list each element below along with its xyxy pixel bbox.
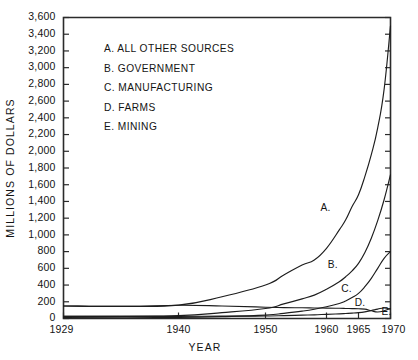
y-tick-label: 3,000 bbox=[28, 60, 55, 72]
y-tick-label: 2,600 bbox=[28, 94, 55, 106]
y-tick-label: 1,600 bbox=[28, 178, 55, 190]
curve-label-d: D. bbox=[355, 297, 366, 308]
y-tick-label: 2,000 bbox=[28, 144, 55, 156]
x-tick-label: 1970 bbox=[381, 323, 405, 335]
curve-label-b: B. bbox=[328, 259, 338, 270]
y-tick-label: 2,800 bbox=[28, 77, 55, 89]
legend-entry-c: C. MANUFACTURING bbox=[104, 82, 213, 93]
x-tick-label: 1940 bbox=[166, 323, 190, 335]
y-tick-label: 400 bbox=[37, 278, 55, 290]
y-tick-label: 200 bbox=[37, 295, 55, 307]
y-tick-label: 0 bbox=[49, 311, 55, 323]
y-tick-label: 3,600 bbox=[28, 10, 55, 22]
x-tick-label: 1960 bbox=[314, 323, 338, 335]
curve-label-e: E. bbox=[382, 306, 392, 317]
x-tick-label: 1965 bbox=[346, 323, 370, 335]
y-tick-label: 1,000 bbox=[28, 228, 55, 240]
y-tick-label: 600 bbox=[37, 261, 55, 273]
curve-label-c: C. bbox=[341, 283, 352, 294]
y-tick-label: 1,200 bbox=[28, 211, 55, 223]
legend-entry-a: A. ALL OTHER SOURCES bbox=[104, 43, 234, 54]
y-tick-label: 3,200 bbox=[28, 44, 55, 56]
chart-figure: 02004006008001,0001,2001,4001,6001,8002,… bbox=[0, 0, 418, 360]
y-tick-label: 1,800 bbox=[28, 161, 55, 173]
y-axis-title: MILLIONS OF DOLLARS bbox=[4, 98, 16, 237]
x-tick-label: 1950 bbox=[253, 323, 277, 335]
x-tick-label: 1929 bbox=[49, 323, 73, 335]
legend-entry-d: D. FARMS bbox=[104, 102, 156, 113]
y-tick-label: 1,400 bbox=[28, 194, 55, 206]
y-tick-label: 2,200 bbox=[28, 127, 55, 139]
x-axis-title: YEAR bbox=[189, 341, 222, 353]
chart-canvas: 02004006008001,0001,2001,4001,6001,8002,… bbox=[0, 0, 418, 360]
y-tick-label: 800 bbox=[37, 244, 55, 256]
y-tick-label: 3,400 bbox=[28, 27, 55, 39]
y-tick-label: 2,400 bbox=[28, 111, 55, 123]
legend-entry-b: B. GOVERNMENT bbox=[104, 63, 195, 74]
curve-label-a: A. bbox=[320, 202, 330, 213]
legend-entry-e: E. MINING bbox=[104, 121, 157, 132]
